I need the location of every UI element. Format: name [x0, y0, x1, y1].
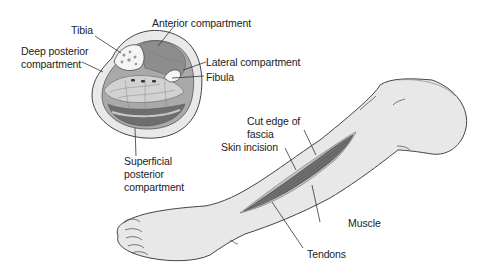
label-deep-posterior-line2: compartment [21, 58, 81, 70]
label-tibia: Tibia [71, 24, 93, 36]
label-anterior-compartment: Anterior compartment [152, 17, 251, 29]
label-lateral-compartment: Lateral compartment [206, 56, 300, 68]
label-superficial-line1: Superficial [124, 155, 172, 167]
label-fibula: Fibula [206, 71, 234, 83]
label-skin-incision: Skin incision [221, 141, 278, 153]
fasciotomy-illustration [0, 0, 489, 277]
label-tendons: Tendons [307, 248, 346, 260]
label-superficial-line2: posterior [124, 168, 164, 180]
label-cut-edge-line2: fascia [247, 128, 274, 140]
label-cut-edge-line1: Cut edge of [247, 115, 300, 127]
leg-cross-section [92, 30, 202, 138]
label-deep-posterior-line1: Deep posterior [21, 45, 88, 57]
label-superficial-line3: compartment [124, 181, 184, 193]
label-muscle: Muscle [348, 217, 381, 229]
